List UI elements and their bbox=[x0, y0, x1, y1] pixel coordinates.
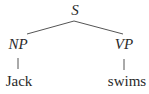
leaf-swims: swims bbox=[108, 74, 146, 89]
edge-s-np bbox=[27, 21, 74, 34]
node-s: S bbox=[71, 3, 79, 18]
node-vp: VP bbox=[115, 37, 133, 52]
node-np: NP bbox=[8, 37, 27, 52]
syntax-tree: S NP VP Jack swims bbox=[0, 0, 149, 94]
leaf-jack: Jack bbox=[6, 74, 33, 89]
edge-s-vp bbox=[74, 21, 123, 34]
